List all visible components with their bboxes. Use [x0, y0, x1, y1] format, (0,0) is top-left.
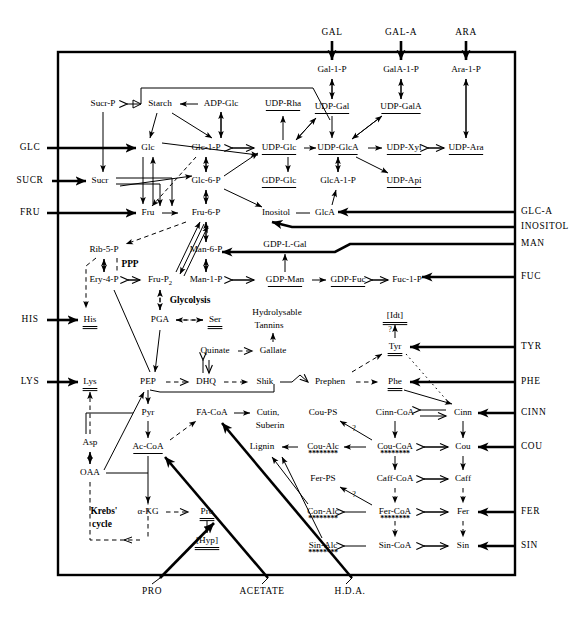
- metabolite-node: GDP-Glc: [262, 175, 297, 185]
- pathway-diagram-canvas: Sucr-PStarchADP-GlcUDP-RhaGal-1-PGalA-1-…: [0, 0, 581, 628]
- metabolite-node: UDP-Gal: [315, 101, 350, 111]
- io-label-sucr: SUCR: [17, 175, 44, 185]
- metabolite-label: Prephen: [315, 376, 346, 386]
- pathway-name-labels: PPPGlycolysisKrebs'cycleHydrolysableTann…: [91, 259, 302, 529]
- asterisk-underline: ********: [380, 514, 410, 523]
- io-label-lys: LYS: [21, 376, 40, 386]
- metabolite-node: Cinn-CoA: [376, 407, 415, 417]
- metabolite-node: Tyr: [389, 341, 402, 351]
- metabolite-label: UDP-GlcA: [317, 142, 359, 152]
- metabolite-label: Fru: [142, 207, 155, 217]
- metabolite-node: Ser: [209, 314, 221, 324]
- metabolite-label: Quinate: [200, 345, 229, 355]
- metabolite-label: Cou-PS: [309, 407, 338, 417]
- io-label-sin: SIN: [521, 540, 538, 550]
- metabolite-label: Ac-CoA: [132, 441, 163, 451]
- metabolite-node: Phe: [388, 376, 402, 386]
- metabolite-node: Sin: [457, 540, 470, 550]
- io-label-gal_a: GAL-A: [385, 27, 417, 37]
- metabolite-label: Gallate: [260, 345, 287, 355]
- io-label-his: HIS: [22, 314, 39, 324]
- metabolite-node: Prephen: [315, 376, 346, 386]
- metabolite-node: Glc: [141, 142, 154, 152]
- metabolite-label: [Hyp]: [196, 535, 218, 545]
- metabolite-node: Cou: [455, 441, 471, 451]
- metabolite-node: Sin-CoA: [379, 540, 412, 550]
- io-label-fer: FER: [521, 506, 540, 516]
- metabolite-label: Asp: [83, 437, 98, 447]
- metabolite-node: Ac-CoA: [132, 441, 163, 451]
- phenylpropanoid-arrows: [272, 390, 463, 546]
- metabolite-label: Ara-1-P: [451, 64, 481, 74]
- io-label-fru: FRU: [20, 207, 40, 217]
- metabolite-label: FA-CoA: [196, 407, 228, 417]
- io-label-cou: COU: [521, 441, 543, 451]
- metabolite-label: DHQ: [196, 376, 216, 386]
- pathway-label-krebs1: Krebs': [91, 506, 118, 516]
- metabolite-node: UDP-GlcA: [317, 142, 359, 152]
- metabolite-node: FA-CoA: [196, 407, 228, 417]
- metabolite-label: Fuc-1-P: [392, 274, 422, 284]
- metabolite-node: OAA: [80, 467, 100, 477]
- asterisk-underline: ********: [308, 548, 338, 557]
- metabolite-node: PGA: [151, 314, 170, 324]
- metabolite-node: UDP-Xyl: [386, 142, 422, 152]
- metabolite-node: Fru-6-P: [192, 207, 221, 217]
- metabolite-node: Sucr-P: [91, 98, 116, 108]
- metabolite-label: Glc-1-P: [191, 142, 220, 152]
- metabolite-node: Shik: [257, 376, 274, 386]
- metabolite-node: Caff: [455, 473, 472, 483]
- metabolite-label: UDP-Glc: [262, 142, 297, 152]
- metabolite-label: Cou: [455, 441, 471, 451]
- pathway-label-tannins2: Tannins: [255, 320, 284, 330]
- io-label-hda_in: H.D.A.: [335, 586, 366, 596]
- metabolite-label: Sin-CoA: [379, 540, 412, 550]
- metabolite-label: GDP-L-Gal: [263, 239, 307, 249]
- metabolite-label: GlcA: [315, 207, 335, 217]
- metabolite-node: GalA-1-P: [383, 64, 419, 74]
- metabolite-label: Fer: [457, 506, 469, 516]
- metabolite-label: UDP-Gal: [315, 101, 350, 111]
- io-label-cinn: CINN: [521, 407, 546, 417]
- metabolite-label: GDP-Fuc: [330, 274, 365, 284]
- io-label-man: MAN: [521, 238, 545, 248]
- asterisk-underline: ********: [308, 514, 338, 523]
- metabolite-label: GDP-Glc: [262, 175, 297, 185]
- metabolite-node: UDP-Glc: [262, 142, 297, 152]
- metabolite-label: Fru-P2: [148, 274, 172, 285]
- metabolite-node: Suberin: [256, 420, 285, 430]
- metabolite-node: Gallate: [260, 345, 287, 355]
- metabolite-node: Inositol: [262, 207, 291, 217]
- metabolite-node: UDP-Rha: [265, 98, 301, 108]
- io-label-pro_in: PRO: [142, 586, 162, 596]
- metabolite-node: Cinn: [454, 407, 472, 417]
- metabolite-label: UDP-Api: [386, 175, 422, 185]
- metabolite-node: GDP-Man: [266, 274, 305, 284]
- metabolite-node: Fuc-1-P: [392, 274, 422, 284]
- metabolite-label: Inositol: [262, 207, 291, 217]
- metabolite-node: DHQ: [196, 376, 216, 386]
- metabolite-label: GlcA-1-P: [320, 175, 356, 185]
- query-mark: ?: [388, 325, 392, 334]
- metabolite-node: Cou-PS: [309, 407, 338, 417]
- metabolite-label: Pro: [201, 506, 214, 516]
- metabolite-label: Sucr: [92, 175, 109, 185]
- metabolite-label: Ery-4-P: [89, 274, 118, 284]
- query-mark: ?: [352, 490, 356, 499]
- metabolite-node: UDP-Api: [386, 175, 422, 185]
- metabolite-label: Shik: [257, 376, 274, 386]
- metabolite-label: OAA: [80, 467, 100, 477]
- metabolite-label: Sucr-P: [91, 98, 116, 108]
- metabolite-label: Suberin: [256, 420, 285, 430]
- metabolite-node: Glc-1-P: [191, 142, 220, 152]
- io-label-glc: GLC: [20, 142, 41, 152]
- metabolite-label: Lignin: [250, 441, 275, 451]
- metabolite-node: [Idt]: [387, 310, 403, 320]
- metabolite-label: Caff-CoA: [377, 473, 414, 483]
- query-mark: ?: [352, 424, 356, 433]
- io-label-inositol: INOSITOL: [521, 221, 569, 231]
- metabolite-node: Starch: [148, 98, 172, 108]
- io-label-phe: PHE: [521, 376, 541, 386]
- metabolite-label: Cutin,: [257, 407, 280, 417]
- metabolite-node: His: [84, 314, 97, 324]
